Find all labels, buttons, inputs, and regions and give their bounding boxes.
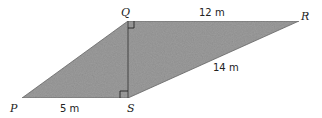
vertex-label-s: S [127,102,135,115]
diagram-canvas: Q R P S 5 m 12 m 14 m [0,0,322,118]
vertex-label-p: P [9,102,18,115]
vertex-label-r: R [300,10,309,23]
measurement-qr: 12 m [199,7,225,18]
measurement-sr: 14 m [213,62,239,73]
shape-pqrs [22,21,299,98]
vertex-label-q: Q [121,6,130,19]
measurement-ps: 5 m [60,103,79,114]
